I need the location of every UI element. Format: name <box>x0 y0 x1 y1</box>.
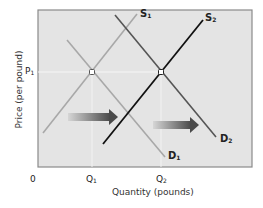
d1-sub: 1 <box>176 154 180 161</box>
x-tick-q2: Q2 <box>156 175 167 184</box>
origin-label: 0 <box>30 175 36 184</box>
curve-label-s2: S2 <box>205 13 216 23</box>
supply-demand-chart <box>0 0 263 208</box>
q2-sub: 2 <box>163 177 167 184</box>
equilibrium-point-e2 <box>159 70 164 75</box>
x-axis-title: Quantity (pounds) <box>112 188 194 197</box>
curve-label-s1: S1 <box>140 9 151 19</box>
equilibrium-point-e1 <box>90 70 95 75</box>
curve-label-d2: D2 <box>220 134 233 144</box>
q1-sub: 1 <box>93 177 97 184</box>
s1-sub: 1 <box>147 12 151 19</box>
x-tick-q1: Q1 <box>86 175 97 184</box>
curve-label-d1: D1 <box>168 151 181 161</box>
y-tick-p1: P1 <box>25 67 34 76</box>
p1-sub: 1 <box>30 69 34 76</box>
d2-sub: 2 <box>228 137 232 144</box>
s2-sub: 2 <box>212 16 216 23</box>
y-axis-title: Price (per pound) <box>15 45 24 135</box>
